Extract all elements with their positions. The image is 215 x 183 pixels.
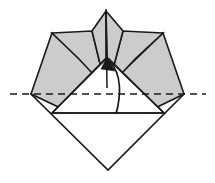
origami-fold-diagram [0, 0, 215, 183]
diagram-container [0, 0, 215, 183]
crease-center-vertical [106, 11, 107, 88]
